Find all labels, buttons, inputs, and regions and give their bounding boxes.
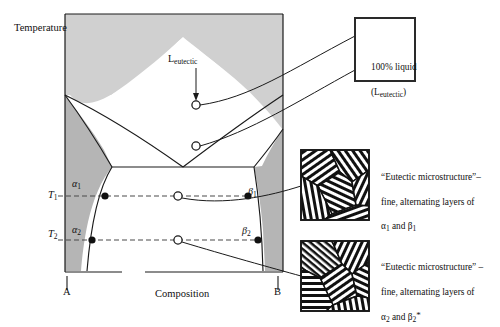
caption-micro2-line1: “Eutectic microstructure” – [381,261,483,273]
temperature-tick-t1: T1 [48,189,58,202]
callout-microstructure-2 [301,241,369,311]
marker-overall-T2 [174,236,182,244]
y-axis-label: Temperature [14,22,67,34]
caption-micro2-mid: and β [390,313,413,323]
label-beta-2-sub: 2 [247,229,251,238]
x-axis-endpoint-b: B [274,286,281,298]
label-alpha-1-sub: 1 [77,182,81,191]
marker-alpha-2 [88,236,95,243]
label-beta-1-sub: 1 [253,190,257,199]
caption-liquid-line2-sub: eutectic [380,89,403,98]
caption-micro2-line2: fine, alternating layers of [381,286,483,298]
caption-liquid-callout: 100% liquid (Leutectic) [371,49,417,112]
caption-micro1-line2: fine, alternating layers of [381,196,481,208]
caption-micro1-mid: and β [390,221,413,231]
caption-microstructure-1: “Eutectic microstructure”– fine, alterna… [381,159,481,246]
caption-liquid-line1: 100% liquid [371,61,417,73]
callout-microstructure-1 [301,150,369,220]
label-beta-2: β2 [242,225,251,238]
caption-micro2-line3: α2 and β2* [381,310,483,325]
x-axis-endpoint-a: A [63,286,71,298]
caption-liquid-line2: (Leutectic) [371,86,417,100]
label-alpha-2-sub: 2 [77,228,81,237]
caption-micro2-asterisk: * [416,310,421,320]
label-alpha-1: α1 [72,178,81,191]
caption-microstructure-2: “Eutectic microstructure” – fine, altern… [381,249,483,327]
label-alpha-2: α2 [72,224,81,237]
marker-overall-T1 [174,192,182,200]
marker-alpha-1 [101,192,108,199]
marker-liquid-eutectic [192,101,200,109]
x-axis-label: Composition [155,288,209,300]
caption-micro1-beta-sub: 1 [412,224,416,233]
caption-micro1-line3: α1 and β1 [381,220,481,234]
label-liquid-eutectic-sub: eutectic [174,57,197,66]
temperature-tick-t1-sub: 1 [54,193,58,202]
temperature-tick-t2: T2 [48,228,58,241]
marker-eutectic-below-liquidus [192,142,200,150]
caption-micro1-line1: “Eutectic microstructure”– [381,171,481,183]
label-beta-1: β1 [248,186,257,199]
label-liquid-eutectic: Leutectic [168,53,197,66]
marker-beta-2 [254,236,261,243]
figure-root: Temperature Composition A B T1 T2 Leutec… [0,0,500,327]
caption-liquid-line2-suffix: ) [403,87,406,97]
temperature-tick-t2-sub: 2 [54,232,58,241]
caption-liquid-line2-prefix: (L [371,87,380,97]
